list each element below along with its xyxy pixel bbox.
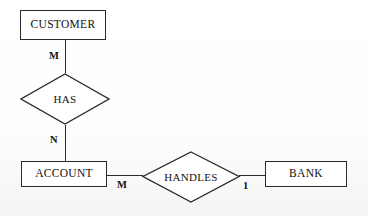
connector-has-account <box>65 125 66 161</box>
connector-handles-bank <box>239 175 266 176</box>
entity-customer-label: CUSTOMER <box>31 19 96 31</box>
connector-account-handles <box>107 175 143 176</box>
relationship-has[interactable]: HAS <box>20 73 110 125</box>
relationship-has-label: HAS <box>54 94 77 105</box>
relationship-handles[interactable]: HANDLES <box>142 151 240 203</box>
relationship-handles-label: HANDLES <box>164 172 217 183</box>
entity-account-label: ACCOUNT <box>35 168 93 180</box>
cardinality-customer-has: M <box>49 51 59 62</box>
cardinality-account-handles: M <box>117 180 127 191</box>
er-diagram-canvas: CUSTOMER HAS ACCOUNT HANDLES BANK M N M … <box>0 0 368 216</box>
cardinality-handles-bank: 1 <box>243 181 248 192</box>
connector-customer-has <box>65 40 66 73</box>
cardinality-has-account: N <box>50 135 58 146</box>
entity-bank-label: BANK <box>289 168 323 180</box>
entity-bank[interactable]: BANK <box>265 161 347 187</box>
entity-customer[interactable]: CUSTOMER <box>20 10 106 40</box>
entity-account[interactable]: ACCOUNT <box>21 161 107 187</box>
